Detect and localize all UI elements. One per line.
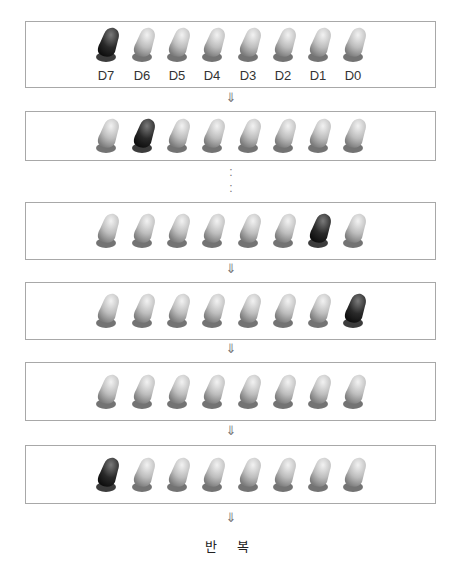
bit-label-d0: D0 — [338, 68, 368, 83]
panel-stage-8 — [25, 282, 436, 340]
led-off-icon-d3 — [237, 117, 263, 155]
led-row — [95, 363, 375, 420]
led-off-icon-d5 — [166, 26, 192, 64]
led-off-icon-d2 — [272, 292, 298, 330]
led-row — [95, 283, 375, 339]
panel-stage-2 — [25, 111, 436, 161]
led-off-icon-d4 — [201, 373, 227, 411]
led-off-icon-d3 — [237, 26, 263, 64]
led-on-icon-d1 — [307, 212, 333, 250]
bit-label-d4: D4 — [197, 68, 227, 83]
led-off-icon-d3 — [237, 212, 263, 250]
led-on-icon-d7 — [95, 26, 121, 64]
led-off-icon-d0 — [342, 117, 368, 155]
led-off-icon-d2 — [272, 456, 298, 494]
led-on-icon-d6 — [131, 117, 157, 155]
led-off-icon-d1 — [307, 117, 333, 155]
led-off-icon-d4 — [201, 292, 227, 330]
led-row — [95, 203, 375, 259]
bit-label-d5: D5 — [162, 68, 192, 83]
panel-stage-7 — [25, 202, 436, 260]
led-off-icon-d7 — [95, 212, 121, 250]
led-off-icon-d1 — [307, 373, 333, 411]
led-off-icon-d4 — [201, 456, 227, 494]
led-off-icon-d5 — [166, 117, 192, 155]
led-off-icon-d2 — [272, 26, 298, 64]
down-arrow-icon: ⇓ — [223, 342, 239, 356]
led-off-icon-d2 — [272, 117, 298, 155]
led-on-icon-d7 — [95, 456, 121, 494]
panel-stage-restart — [25, 445, 436, 504]
down-arrow-icon: ⇓ — [223, 424, 239, 438]
down-arrow-icon: ⇓ — [223, 511, 239, 525]
ellipsis-1: : — [226, 166, 236, 178]
led-off-icon-d1 — [307, 456, 333, 494]
down-arrow-icon: ⇓ — [223, 262, 239, 276]
led-off-icon-d4 — [201, 26, 227, 64]
led-off-icon-d0 — [342, 26, 368, 64]
led-off-icon-d6 — [131, 26, 157, 64]
panel-stage-1: D7D6D5D4D3D2D1D0 — [25, 21, 436, 88]
led-off-icon-d3 — [237, 373, 263, 411]
led-off-icon-d0 — [342, 456, 368, 494]
led-off-icon-d1 — [307, 292, 333, 330]
bit-label-d1: D1 — [303, 68, 333, 83]
bit-label-d3: D3 — [233, 68, 263, 83]
led-off-icon-d0 — [342, 212, 368, 250]
led-off-icon-d6 — [131, 292, 157, 330]
led-off-icon-d7 — [95, 292, 121, 330]
led-on-icon-d0 — [342, 292, 368, 330]
led-off-icon-d5 — [166, 373, 192, 411]
led-off-icon-d5 — [166, 456, 192, 494]
led-off-icon-d2 — [272, 373, 298, 411]
panel-stage-all-off — [25, 362, 436, 421]
down-arrow-icon: ⇓ — [223, 91, 239, 105]
led-off-icon-d5 — [166, 212, 192, 250]
ellipsis-2: : — [226, 182, 236, 194]
bit-label-d7: D7 — [91, 68, 121, 83]
led-off-icon-d6 — [131, 456, 157, 494]
led-off-icon-d7 — [95, 373, 121, 411]
led-off-icon-d4 — [201, 117, 227, 155]
led-row — [95, 112, 375, 160]
led-off-icon-d5 — [166, 292, 192, 330]
led-off-icon-d3 — [237, 456, 263, 494]
led-off-icon-d6 — [131, 212, 157, 250]
led-off-icon-d4 — [201, 212, 227, 250]
led-off-icon-d6 — [131, 373, 157, 411]
led-off-icon-d3 — [237, 292, 263, 330]
bit-label-d6: D6 — [127, 68, 157, 83]
led-off-icon-d2 — [272, 212, 298, 250]
bit-label-d2: D2 — [268, 68, 298, 83]
led-row — [95, 446, 375, 503]
led-off-icon-d0 — [342, 373, 368, 411]
repeat-label: 반 복 — [200, 536, 262, 555]
led-off-icon-d7 — [95, 117, 121, 155]
led-off-icon-d1 — [307, 26, 333, 64]
led-row: D7D6D5D4D3D2D1D0 — [95, 22, 375, 87]
